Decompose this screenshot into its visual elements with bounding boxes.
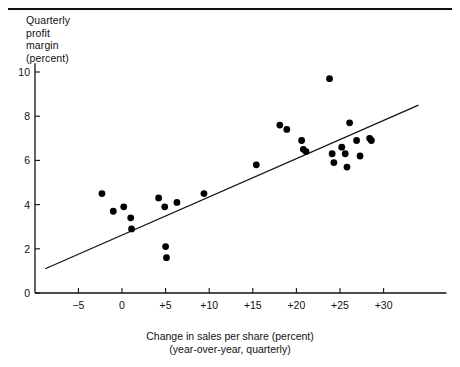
trend-line-group: [45, 105, 418, 269]
y-tick-label: 0: [24, 287, 30, 299]
data-point: [368, 137, 375, 144]
data-point: [163, 254, 170, 261]
data-point: [128, 226, 135, 233]
data-point: [276, 122, 283, 129]
x-tick-label: +30: [375, 299, 393, 311]
data-point: [346, 119, 353, 126]
y-tick-label: 6: [24, 154, 30, 166]
data-point: [110, 208, 117, 215]
y-tick-label: 8: [24, 110, 30, 122]
data-point: [99, 190, 106, 197]
data-point: [127, 214, 134, 221]
figure: Quarterly profit margin (percent) −50+5+…: [0, 0, 460, 367]
data-point: [298, 137, 305, 144]
regression-line: [45, 105, 418, 269]
data-point: [161, 203, 168, 210]
data-point: [303, 148, 310, 155]
data-point-group: [99, 75, 375, 261]
data-point: [353, 137, 360, 144]
y-tick-label: 4: [24, 199, 30, 211]
x-tick-label: −5: [72, 299, 84, 311]
data-point: [338, 144, 345, 151]
x-tick-label: +5: [160, 299, 172, 311]
data-point: [357, 153, 364, 160]
axes-group: [35, 63, 446, 293]
scatter-plot-canvas: −50+5+10+15+20+25+30 0246810: [0, 0, 460, 367]
data-point: [201, 190, 208, 197]
x-axis-label-sub: (year-over-year, quarterly): [0, 343, 460, 356]
data-point: [326, 75, 333, 82]
x-tick-label: +20: [287, 299, 305, 311]
data-point: [283, 126, 290, 133]
data-point: [329, 150, 336, 157]
data-point: [330, 159, 337, 166]
y-tick-label: 10: [18, 66, 30, 78]
y-tick-group: 0246810: [18, 66, 40, 299]
data-point: [342, 150, 349, 157]
data-point: [155, 195, 162, 202]
data-point: [162, 243, 169, 250]
data-point: [253, 161, 260, 168]
x-tick-label: +15: [244, 299, 262, 311]
data-point: [174, 199, 181, 206]
x-tick-label: 0: [119, 299, 125, 311]
data-point: [120, 203, 127, 210]
data-point: [344, 164, 351, 171]
y-tick-label: 2: [24, 243, 30, 255]
x-tick-label: +10: [200, 299, 218, 311]
x-tick-group: −50+5+10+15+20+25+30: [72, 288, 392, 311]
x-axis-label-main: Change in sales per share (percent): [0, 330, 460, 343]
x-axis-label: Change in sales per share (percent) (yea…: [0, 330, 460, 355]
x-tick-label: +25: [331, 299, 349, 311]
